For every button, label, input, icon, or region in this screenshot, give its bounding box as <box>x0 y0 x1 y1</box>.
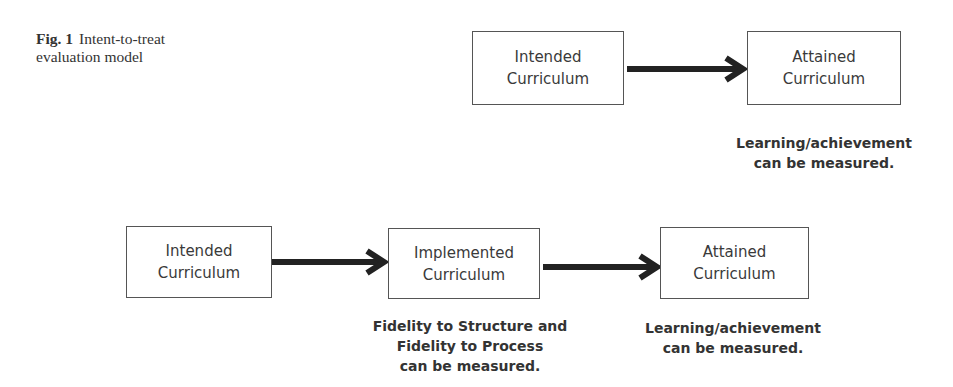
box-label-line2: Curriculum <box>783 68 865 90</box>
top-intended-curriculum-box: Intended Curriculum <box>472 31 624 105</box>
bottom-intended-curriculum-box: Intended Curriculum <box>126 226 272 298</box>
top-attained-note: Learning/achievement can be measured. <box>710 133 938 173</box>
note-line2: can be measured. <box>710 153 938 173</box>
implemented-curriculum-box: Implemented Curriculum <box>388 228 540 299</box>
implemented-fidelity-note: Fidelity to Structure and Fidelity to Pr… <box>355 316 585 376</box>
bottom-attained-note: Learning/achievement can be measured. <box>622 318 844 358</box>
arrow-top-intended-to-attained <box>627 58 743 80</box>
note-line2: Fidelity to Process <box>355 336 585 356</box>
box-label-line2: Curriculum <box>693 263 775 285</box>
box-label-line1: Intended <box>166 240 233 262</box>
note-line1: Learning/achievement <box>710 133 938 153</box>
box-label-line2: Curriculum <box>423 264 505 286</box>
arrow-intended-to-implemented <box>272 251 384 273</box>
box-label-line1: Attained <box>703 241 766 263</box>
box-label-line1: Attained <box>792 46 855 68</box>
note-line1: Fidelity to Structure and <box>355 316 585 336</box>
note-line3: can be measured. <box>355 356 585 376</box>
box-label-line2: Curriculum <box>158 262 240 284</box>
box-label-line1: Implemented <box>414 242 514 264</box>
note-line1: Learning/achievement <box>622 318 844 338</box>
note-line2: can be measured. <box>622 338 844 358</box>
box-label-line1: Intended <box>515 46 582 68</box>
arrow-implemented-to-attained <box>543 256 657 278</box>
bottom-attained-curriculum-box: Attained Curriculum <box>660 227 809 299</box>
box-label-line2: Curriculum <box>507 68 589 90</box>
top-attained-curriculum-box: Attained Curriculum <box>747 31 901 105</box>
